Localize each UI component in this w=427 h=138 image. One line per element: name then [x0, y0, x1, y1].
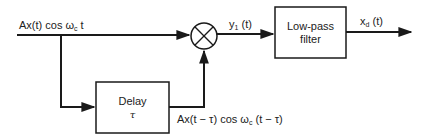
multiplier-icon [191, 23, 217, 49]
branch-to-delay-line [61, 35, 94, 107]
lowpass-filter-line2: filter [275, 33, 346, 46]
lowpass-filter-label: Low-pass filter [275, 20, 346, 46]
output-signal-label: xd (t) [360, 15, 383, 31]
delayed-signal-line [169, 51, 204, 107]
multiplier-output-label: y1 (t) [229, 18, 252, 34]
delay-line1: Delay [96, 95, 169, 108]
input-signal-label: Ax(t) cos ωc t [19, 19, 84, 35]
delay-label: Delay τ [96, 95, 169, 121]
delay-tau: τ [96, 108, 169, 121]
lowpass-filter-line1: Low-pass [275, 20, 346, 33]
delayed-signal-label: Ax(t − τ) cos ωc (t − τ) [177, 113, 283, 129]
